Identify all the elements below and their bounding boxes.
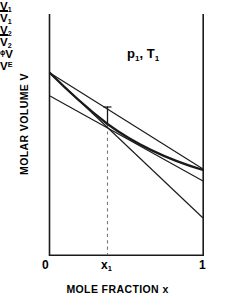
figure-container: MOLAR VOLUME V MOLE FRACTION x 0 x1 1 p1… [0, 0, 235, 303]
label-v2-bar-base: V [0, 36, 8, 48]
conditions-p: p [127, 46, 135, 61]
series-tangent-line [50, 96, 203, 181]
x-tick-x1: x1 [101, 258, 112, 272]
label-v2-subscript: 2 [8, 30, 12, 38]
overbar-v1 [0, 10, 8, 12]
label-v2-bar-overbar-group: V [0, 36, 8, 48]
conditions-separator: , [139, 46, 146, 61]
x-tick-1: 1 [199, 258, 206, 272]
label-phi-v-prefix: ϕ [0, 49, 5, 57]
x-tick-x1-sub: 1 [108, 264, 112, 273]
x-axis-title: MOLE FRACTION x [0, 283, 235, 295]
label-v1-bar-overbar-group: V [0, 12, 8, 24]
label-v1-bar-base: V [0, 12, 8, 24]
label-v1-subscript: 1 [8, 6, 12, 14]
overbar-v2 [0, 34, 8, 36]
label-v1-bar-subscript: 1 [8, 18, 12, 26]
x-tick-0: 0 [42, 258, 49, 272]
conditions-t-subscript: 1 [155, 54, 159, 63]
conditions-t: T [147, 46, 155, 61]
label-v2-bar-subscript: 2 [8, 42, 12, 50]
conditions-p-subscript: 1 [135, 54, 139, 63]
series-ideal-line [50, 73, 203, 169]
x-tick-x1-base: x [101, 258, 108, 272]
label-excess-volume-superscript: E [8, 61, 13, 69]
y-axis-title: MOLAR VOLUME V [18, 54, 30, 194]
conditions-annotation: p1, T1 [127, 46, 159, 61]
